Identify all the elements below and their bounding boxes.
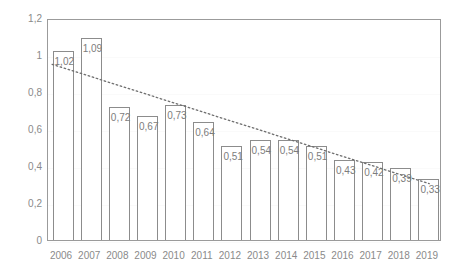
data-label-2006: 1,02 xyxy=(55,56,74,67)
x-tick-label-2018: 2018 xyxy=(385,250,413,261)
data-label-2008: 0,72 xyxy=(111,112,130,123)
plot-area: 1,021,090,720,670,730,640,510,540,540,51… xyxy=(47,19,441,241)
data-label-2009: 0,67 xyxy=(139,121,158,132)
gridline xyxy=(48,242,440,243)
x-tick-label-2006: 2006 xyxy=(47,250,75,261)
data-label-2015: 0,51 xyxy=(308,151,327,162)
x-tick-label-2016: 2016 xyxy=(328,250,356,261)
data-label-2018: 0,39 xyxy=(392,173,411,184)
gridline xyxy=(48,94,440,95)
y-tick-label: 1 xyxy=(36,51,42,61)
x-tick-label-2010: 2010 xyxy=(160,250,188,261)
data-label-2007: 1,09 xyxy=(83,43,102,54)
x-tick-label-2009: 2009 xyxy=(131,250,159,261)
y-tick-label: 1,2 xyxy=(28,14,42,24)
data-label-2016: 0,43 xyxy=(336,165,355,176)
bar-chart: 00,20,40,60,811,2 1,021,090,720,670,730,… xyxy=(0,0,466,276)
data-label-2013: 0,54 xyxy=(252,145,271,156)
data-label-2017: 0,42 xyxy=(364,167,383,178)
y-tick-label: 0 xyxy=(36,236,42,246)
x-tick-label-2008: 2008 xyxy=(103,250,131,261)
x-tick-label-2019: 2019 xyxy=(413,250,441,261)
data-label-2011: 0,64 xyxy=(195,127,214,138)
data-label-2010: 0,73 xyxy=(167,110,186,121)
x-tick-label-2007: 2007 xyxy=(75,250,103,261)
bar-2011 xyxy=(193,122,214,240)
bar-2009 xyxy=(137,116,158,240)
gridline xyxy=(48,131,440,132)
x-tick-label-2014: 2014 xyxy=(272,250,300,261)
y-tick-label: 0,4 xyxy=(28,162,42,172)
y-axis: 00,20,40,60,811,2 xyxy=(0,0,42,276)
x-tick-label-2012: 2012 xyxy=(216,250,244,261)
x-tick-label-2011: 2011 xyxy=(188,250,216,261)
x-tick-label-2013: 2013 xyxy=(244,250,272,261)
x-tick-label-2015: 2015 xyxy=(300,250,328,261)
gridline xyxy=(48,57,440,58)
bar-2010 xyxy=(165,105,186,240)
y-tick-label: 0,8 xyxy=(28,88,42,98)
bar-2007 xyxy=(81,38,102,240)
bar-2006 xyxy=(53,51,74,240)
data-label-2012: 0,51 xyxy=(223,151,242,162)
data-label-2014: 0,54 xyxy=(280,145,299,156)
data-label-2019: 0,33 xyxy=(420,184,439,195)
bar-2008 xyxy=(109,107,130,240)
y-tick-label: 0,2 xyxy=(28,199,42,209)
y-tick-label: 0,6 xyxy=(28,125,42,135)
x-tick-label-2017: 2017 xyxy=(357,250,385,261)
